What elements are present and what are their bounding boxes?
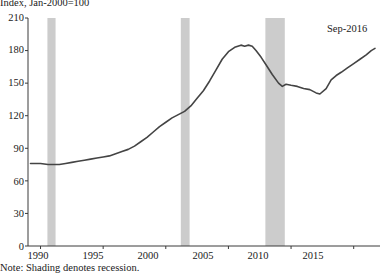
chart-plot-area [0, 0, 382, 278]
x-axis-tick-label: 2000 [128, 250, 168, 261]
y-axis-tick-label: 150 [0, 77, 24, 88]
y-axis-tick-label: 180 [0, 44, 24, 55]
chart-note: Note: Shading denotes recession. [0, 262, 139, 273]
chart-figure: Index, Jan-2000=100 2101801501209060300 … [0, 0, 382, 278]
x-axis-tick-label: 1990 [18, 250, 58, 261]
y-axis-tick-label: 30 [0, 208, 24, 219]
y-axis-tick-label: 60 [0, 176, 24, 187]
endpoint-annotation-label: Sep-2016 [327, 23, 367, 34]
x-axis-tick-label: 2010 [238, 250, 278, 261]
x-axis-tick-label: 2005 [183, 250, 223, 261]
axes-group [25, 18, 380, 249]
recession-band [47, 18, 55, 246]
x-axis-tick-label: 2015 [293, 250, 333, 261]
recession-shading-group [47, 18, 284, 246]
recession-band [265, 18, 284, 246]
recession-band [181, 18, 190, 246]
x-axis-tick-label: 1995 [73, 250, 113, 261]
y-axis-tick-label: 120 [0, 110, 24, 121]
data-series-line [31, 45, 375, 164]
y-axis-tick-label: 210 [0, 12, 24, 23]
y-axis-tick-label: 90 [0, 143, 24, 154]
